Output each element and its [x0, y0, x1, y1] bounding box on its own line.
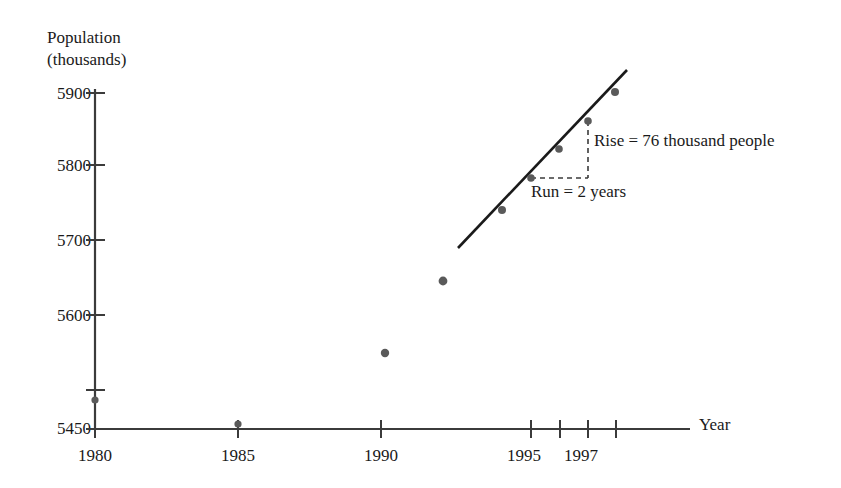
- data-point: [555, 145, 563, 153]
- data-point: [91, 396, 98, 403]
- chart-canvas: [0, 0, 841, 488]
- data-points: [91, 88, 619, 428]
- population-scatter-chart: Population (thousands) Year 5900 5800 57…: [0, 0, 841, 488]
- data-point: [584, 117, 592, 125]
- data-point: [439, 277, 448, 286]
- data-point: [234, 420, 241, 427]
- data-point: [498, 206, 506, 214]
- data-point: [527, 174, 535, 182]
- data-point: [611, 88, 619, 96]
- data-point: [381, 349, 389, 357]
- trend-line: [458, 70, 627, 248]
